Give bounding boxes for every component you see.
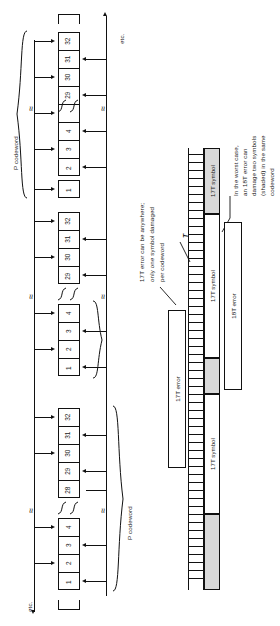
feed-line: [34, 349, 52, 350]
symbol-cell: 32: [59, 33, 79, 51]
symbol-cell-label: 1: [66, 366, 72, 370]
return-arrowhead: [82, 329, 86, 333]
symbol-cell: 32: [59, 409, 79, 427]
p-codeword-brace-2: [112, 405, 126, 593]
feed-line: [34, 113, 52, 114]
symbol-cell-label: 3: [66, 330, 72, 334]
p-codeword-brace-1: [14, 30, 28, 200]
symbol-cell-label: 1: [66, 188, 72, 192]
return-line: [86, 275, 107, 276]
feed-line: [34, 313, 52, 314]
error-bar-17t-label: 17T error: [174, 376, 181, 401]
symbol-segment: 17T symbol: [204, 214, 220, 358]
rail-break-mark: ≈: [27, 294, 36, 299]
symbol-cell: 30: [59, 445, 79, 463]
return-line: [86, 131, 107, 132]
symbol-cell: 29: [59, 267, 79, 285]
symbol-cell-label: 29: [66, 272, 72, 279]
codeword-column-1b: 1: [58, 180, 80, 198]
feed-line: [34, 563, 52, 564]
return-arrowhead: [82, 57, 86, 61]
rail-break-mark: ≈: [27, 106, 36, 111]
feed-line: [34, 149, 52, 150]
return-line: [86, 59, 107, 60]
feed-arrowhead: [51, 451, 55, 455]
p-codeword-brace-tail: [92, 300, 104, 380]
symbol-cell-label: 31: [66, 236, 72, 243]
symbol-segment-shaded: [204, 358, 220, 394]
symbol-segment: 17T symbol: [204, 394, 220, 514]
break-squiggle: [56, 286, 82, 302]
symbol-cell-label: 30: [66, 74, 72, 81]
symbol-cell-label: 29: [66, 468, 72, 475]
symbol-cell: 1: [59, 359, 79, 377]
symbol-segment-shaded: 17T symbol: [204, 148, 220, 214]
p-codeword-label-2: P codeword: [126, 506, 133, 540]
feed-line: [34, 221, 52, 222]
return-arrowhead: [82, 93, 86, 97]
symbol-cell-label: 2: [66, 166, 72, 170]
feed-line: [34, 453, 52, 454]
feed-arrowhead: [51, 111, 55, 115]
symbol-ruler: [188, 148, 204, 590]
symbol-cell: 3: [59, 537, 79, 555]
symbol-segment-shaded: [204, 514, 220, 590]
rail-break-mark: ≈: [99, 294, 108, 299]
symbol-cell-label: 4: [66, 526, 72, 530]
symbol-cell: 2: [59, 555, 79, 573]
note-18t-line-1: In the worst case,: [232, 145, 239, 196]
codeword-column-3-low: 4 3 2 1: [58, 518, 80, 590]
feed-line: [34, 257, 52, 258]
rail-break-mark: ≈: [99, 508, 108, 513]
return-arrowhead: [82, 129, 86, 133]
symbol-cell: 32: [59, 213, 79, 231]
feed-line: [34, 77, 52, 78]
feed-arrowhead: [51, 147, 55, 151]
symbol-cell-label: 32: [66, 414, 72, 421]
codeword-column-2-low: 4 3 2 1: [58, 304, 80, 376]
note-18t-line-5: codeword: [268, 168, 275, 196]
return-arrowhead: [82, 365, 86, 369]
feed-arrowhead: [51, 311, 55, 315]
note-17t-line-3: per codeword: [158, 243, 165, 282]
symbol-cell: 31: [59, 231, 79, 249]
error-bar-18t: 18T error: [224, 222, 242, 390]
return-line: [86, 239, 107, 240]
symbol-cell: 3: [59, 323, 79, 341]
t-marker-label: T: [182, 234, 189, 238]
symbol-cell: 28: [59, 481, 79, 499]
symbol-cell-label: 32: [66, 218, 72, 225]
symbol-cell-label: 30: [66, 254, 72, 261]
return-arrowhead: [82, 273, 86, 277]
feed-line: [34, 189, 52, 190]
symbol-cell: 1: [59, 573, 79, 591]
return-arrowhead: [82, 165, 86, 169]
return-line: [86, 471, 107, 472]
symbol-cell: 2: [59, 341, 79, 359]
symbol-cell: 4: [59, 123, 79, 141]
note-17t-line-1: 17T error can be anywhere;: [138, 203, 145, 282]
feed-arrowhead: [51, 187, 55, 191]
rail-break-mark: ≈: [27, 508, 36, 513]
feed-arrowhead: [51, 255, 55, 259]
feed-arrowhead: [51, 75, 55, 79]
error-bar-18t-label: 18T error: [230, 293, 237, 318]
symbol-cell-label: 3: [66, 148, 72, 152]
symbol-cell: 4: [59, 305, 79, 323]
feed-arrowhead: [51, 525, 55, 529]
return-arrowhead: [82, 469, 86, 473]
symbol-cell-label: 2: [66, 562, 72, 566]
etc-label-bottom: etc.: [26, 602, 33, 612]
symbol-cell: 29: [59, 463, 79, 481]
symbol-cell: 30: [59, 69, 79, 87]
symbol-segment-label: 17T symbol: [209, 165, 216, 197]
feed-arrowhead: [51, 347, 55, 351]
symbol-cell-label: 1: [66, 580, 72, 584]
note-17t-line-2: only one symbol damaged: [148, 207, 155, 282]
return-line: [86, 581, 107, 582]
symbol-cell: 30: [59, 249, 79, 267]
return-line: [86, 435, 107, 436]
chain-cap-bottom: [58, 600, 80, 610]
note-18t-line-4: (shaded) in the same: [259, 135, 266, 196]
symbol-cell-label: 31: [66, 56, 72, 63]
